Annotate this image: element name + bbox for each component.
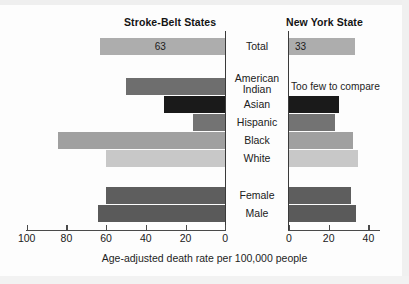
x-axis-right-tick-label-0: 0 xyxy=(286,232,292,244)
bar-value-left-total: 63 xyxy=(155,38,166,55)
butterfly-bar-chart: Stroke-Belt States New York State 63 33T… xyxy=(0,0,409,284)
bar-right-asian xyxy=(289,96,339,113)
bar-left-male xyxy=(98,205,225,222)
bar-value-right-total: 33 xyxy=(295,38,306,55)
bar-left-black xyxy=(58,132,225,149)
x-axis-right-tick-40 xyxy=(368,225,369,230)
x-axis-right-tick-20 xyxy=(329,225,330,230)
category-label-male: Male xyxy=(226,208,288,219)
category-label-female: Female xyxy=(226,190,288,201)
panel-title-new-york: New York State xyxy=(286,16,363,28)
x-axis-left-tick-label-20: 20 xyxy=(180,232,192,244)
bar-left-female xyxy=(106,187,225,204)
x-axis-right-tick-label-20: 20 xyxy=(323,232,335,244)
bar-right-white xyxy=(289,150,358,167)
x-axis-left-tick-label-100: 100 xyxy=(18,232,36,244)
x-axis-left-tick-40 xyxy=(146,225,147,230)
category-label-total: Total xyxy=(226,41,288,52)
x-axis-left-tick-20 xyxy=(186,225,187,230)
bar-right-male xyxy=(289,205,356,222)
x-axis-baseline-right xyxy=(288,230,380,231)
x-axis-left-tick-80 xyxy=(66,225,67,230)
x-axis-left-tick-60 xyxy=(106,225,107,230)
x-axis-left-tick-label-40: 40 xyxy=(140,232,152,244)
bar-right-hispanic xyxy=(289,114,335,131)
bar-right-female xyxy=(289,187,351,204)
bar-left-american-indian xyxy=(126,78,225,95)
x-axis-left-tick-label-60: 60 xyxy=(100,232,112,244)
category-label-white: White xyxy=(226,153,288,164)
bar-left-white xyxy=(106,150,225,167)
bar-left-asian xyxy=(164,96,226,113)
note-too-few-to-compare: Too few to compare xyxy=(291,81,380,92)
chart-caption: Age-adjusted death rate per 100,000 peop… xyxy=(0,252,409,264)
x-axis-left-tick-100 xyxy=(27,225,28,230)
category-label-american-indian: AmericanIndian xyxy=(226,73,288,94)
category-label-black: Black xyxy=(226,135,288,146)
category-label-asian: Asian xyxy=(226,99,288,110)
x-axis-left-tick-0 xyxy=(225,225,226,230)
category-label-hispanic: Hispanic xyxy=(226,117,288,128)
x-axis-left-tick-label-80: 80 xyxy=(61,232,73,244)
x-axis-baseline-left xyxy=(26,230,226,231)
bar-right-black xyxy=(289,132,353,149)
x-axis-right-tick-label-40: 40 xyxy=(363,232,375,244)
x-axis-left-tick-label-0: 0 xyxy=(222,232,228,244)
bar-left-hispanic xyxy=(193,114,225,131)
x-axis-right-tick-0 xyxy=(289,225,290,230)
panel-title-stroke-belt: Stroke-Belt States xyxy=(124,16,216,28)
